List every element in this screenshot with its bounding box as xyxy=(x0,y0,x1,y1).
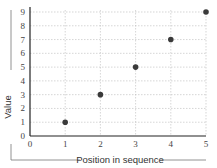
y-tick-label: 2 xyxy=(21,103,26,113)
y-tick-label: 5 xyxy=(21,62,26,72)
y-tick-label: 0 xyxy=(21,131,26,141)
tick-labels: 0123456789012345 xyxy=(21,7,209,149)
y-tick-label: 6 xyxy=(21,48,26,58)
x-tick-label: 0 xyxy=(28,139,33,149)
axes xyxy=(30,7,206,136)
y-tick-label: 4 xyxy=(21,76,26,86)
data-point xyxy=(133,64,139,70)
x-tick-label: 4 xyxy=(169,139,174,149)
y-tick-label: 3 xyxy=(21,90,26,100)
x-tick-label: 2 xyxy=(98,139,103,149)
data-point xyxy=(98,92,104,98)
y-tick-label: 7 xyxy=(21,35,26,45)
y-tick-label: 1 xyxy=(21,117,26,127)
data-point xyxy=(168,37,174,43)
y-axis-label: Value xyxy=(2,95,13,119)
x-tick-label: 5 xyxy=(204,139,209,149)
x-tick-label: 3 xyxy=(133,139,138,149)
data-point xyxy=(203,9,209,15)
x-axis-label: Position in sequence xyxy=(76,154,164,165)
grid-lines xyxy=(30,10,206,136)
axis-labels: Position in sequence Value xyxy=(2,10,206,165)
scatter-chart: 0123456789012345 Position in sequence Va… xyxy=(0,0,217,168)
y-tick-label: 8 xyxy=(21,21,26,31)
data-point xyxy=(62,119,68,125)
y-tick-label: 9 xyxy=(21,7,26,17)
x-tick-label: 1 xyxy=(63,139,68,149)
